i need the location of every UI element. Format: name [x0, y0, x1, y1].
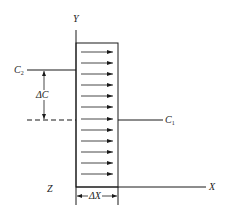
- c2-label: C2: [14, 65, 24, 76]
- c2-label-subscript: 2: [21, 70, 24, 76]
- slab-rectangle: [76, 43, 118, 187]
- c1-label-subscript: 1: [172, 120, 175, 126]
- y-axis-label: Y: [73, 14, 79, 24]
- x-axis-label: X: [209, 182, 215, 192]
- delta-c-label: ΔC: [35, 90, 50, 100]
- z-axis-label: Z: [47, 184, 53, 194]
- c1-label-base: C: [165, 114, 172, 125]
- flux-arrows: [81, 52, 113, 174]
- delta-x-label: ΔX: [88, 191, 102, 201]
- c1-label: C1: [165, 115, 175, 126]
- diffusion-diagram: [0, 0, 228, 224]
- c2-label-base: C: [14, 64, 21, 75]
